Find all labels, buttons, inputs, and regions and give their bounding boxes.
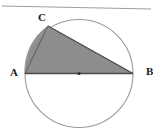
vertex-label-c: C (38, 12, 46, 23)
vertex-label-a: A (10, 67, 18, 78)
center-dot (77, 72, 80, 75)
shaded-region (25, 26, 133, 74)
vertex-label-b: B (146, 66, 153, 77)
circle-diagram-canvas (0, 0, 153, 133)
geometry-figure: C A B (0, 0, 153, 133)
top-rule-line (2, 6, 151, 9)
